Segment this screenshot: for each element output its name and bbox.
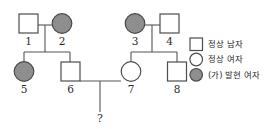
symbol-square-normal-male — [19, 14, 38, 33]
symbol-circle-affected-female — [125, 14, 145, 34]
individual-4[interactable]: 4 — [160, 14, 179, 47]
individual-unknown-child[interactable]: ? — [97, 112, 103, 125]
symbol-circle-normal-female — [121, 62, 141, 82]
legend-circle-filled-icon — [190, 69, 203, 82]
individual-1[interactable]: 1 — [19, 14, 38, 47]
individual-8[interactable]: 8 — [168, 62, 187, 95]
symbol-circle-affected-female — [14, 62, 34, 82]
individual-label-8: 8 — [174, 83, 181, 95]
legend-label-normal-male: 정상 남자 — [208, 39, 243, 49]
legend-square-outline-icon — [190, 38, 203, 51]
legend-circle-outline-icon — [190, 53, 203, 66]
individual-2[interactable]: 2 — [52, 14, 72, 47]
legend-item-normal-male: 정상 남자 — [190, 38, 243, 51]
mating-group-6-7 — [80, 81, 121, 112]
legend-item-affected-female: (가) 발현 여자 — [190, 69, 260, 82]
pedigree-diagram: 1 2 3 4 5 — [0, 0, 277, 129]
unknown-child-label: ? — [97, 112, 103, 125]
legend-item-normal-female: 정상 여자 — [190, 53, 243, 66]
individual-6[interactable]: 6 — [61, 62, 80, 95]
legend: 정상 남자 정상 여자 (가) 발현 여자 — [190, 38, 260, 81]
individual-7[interactable]: 7 — [121, 62, 141, 95]
individual-label-1: 1 — [25, 35, 32, 47]
individual-label-6: 6 — [67, 83, 74, 95]
symbol-square-normal-male — [160, 14, 179, 33]
individual-label-5: 5 — [21, 83, 28, 95]
legend-label-affected-female: (가) 발현 여자 — [208, 70, 260, 80]
symbol-square-normal-male — [61, 62, 80, 81]
individual-5[interactable]: 5 — [14, 62, 34, 95]
individual-label-4: 4 — [166, 35, 173, 47]
legend-label-normal-female: 정상 여자 — [208, 54, 243, 64]
individual-label-3: 3 — [132, 35, 139, 47]
symbol-circle-affected-female — [52, 14, 72, 34]
individual-label-2: 2 — [59, 35, 66, 47]
symbol-square-normal-male — [168, 62, 187, 81]
individual-label-7: 7 — [128, 83, 135, 95]
individual-3[interactable]: 3 — [125, 14, 145, 47]
pedigree-screen: 1 2 3 4 5 — [0, 0, 277, 129]
